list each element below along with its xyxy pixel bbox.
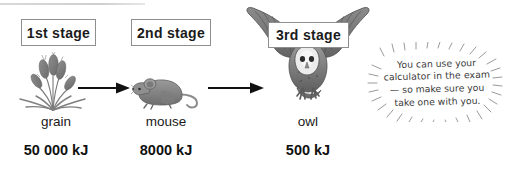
organism-label-owl: owl [262, 114, 354, 129]
organism-label-grain: grain [10, 114, 102, 129]
barn-owl-icon [245, 2, 371, 110]
top-divider-rule [0, 3, 145, 5]
mouse-icon [131, 71, 205, 115]
energy-value-mouse: 8000 kJ [116, 142, 216, 158]
organism-label-mouse: mouse [118, 114, 214, 129]
exam-tip-text: You can use your calculator in the exam … [377, 48, 497, 117]
stage-box-3rd: 3rd stage [268, 22, 349, 48]
stage-box-2nd: 2nd stage [131, 19, 211, 46]
arrow-grain-to-mouse [78, 82, 130, 94]
exam-tip-line-4: take one with you. [394, 94, 480, 109]
energy-value-grain: 50 000 kJ [4, 142, 108, 158]
stage-box-1st: 1st stage [21, 19, 96, 46]
energy-value-owl: 500 kJ [262, 142, 354, 158]
exam-tip-note: You can use your calculator in the exam … [366, 42, 506, 122]
diagram-canvas: 1st stage 2nd stage 3rd stage [0, 0, 512, 179]
